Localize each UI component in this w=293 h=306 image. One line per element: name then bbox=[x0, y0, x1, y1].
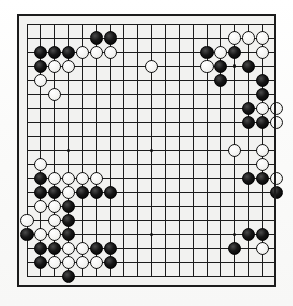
board-border bbox=[17, 14, 276, 287]
go-board[interactable] bbox=[17, 14, 276, 287]
go-board-app bbox=[0, 0, 293, 306]
